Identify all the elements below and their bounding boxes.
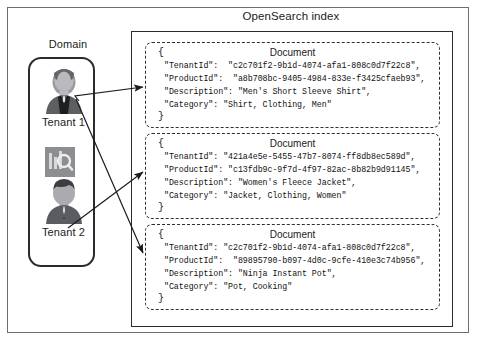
domain-box: Tenant 1 Tenant 2 <box>28 57 95 267</box>
document-field-productid: "ProductId": "a8b708bc-9405-4984-833e-f3… <box>146 72 439 85</box>
document-field-description: "Description": "Men's Short Sleeve Shirt… <box>146 85 439 98</box>
tenant-1-avatar <box>42 67 86 115</box>
open-brace: { <box>158 138 164 150</box>
tenant-2-group: Tenant 2 <box>30 177 97 238</box>
document-card: { Document "TenantId": "421a4e5e-5455-47… <box>145 133 440 219</box>
document-field-tenantid: "TenantId": "421a4e5e-5455-47b7-8074-ff8… <box>146 150 439 163</box>
document-field-tenantid: "TenantId": "c2c701f2-9b1d-4074-afa1-808… <box>146 241 439 254</box>
opensearch-index-title: OpenSearch index <box>128 10 454 22</box>
document-field-description: "Description": "Women's Fleece Jacket", <box>146 176 439 189</box>
document-card: { Document "TenantId": "c2c701f2-9b1d-40… <box>145 42 440 128</box>
document-heading-row: { Document <box>146 138 439 150</box>
document-field-productid: "ProductId": "89895790-b097-4d0c-9cfe-41… <box>146 254 439 267</box>
document-card: { Document "TenantId": "c2c701f2-9b1d-40… <box>145 224 440 310</box>
document-heading: Document <box>270 229 316 240</box>
close-brace: } <box>146 293 439 305</box>
tenant-2-avatar <box>42 177 86 225</box>
document-heading-row: { Document <box>146 229 439 241</box>
opensearch-index-icon <box>45 147 75 177</box>
document-heading: Document <box>270 138 316 149</box>
document-field-category: "Category": "Shirt, Clothing, Men" <box>146 98 439 111</box>
open-brace: { <box>158 229 164 241</box>
close-brace: } <box>146 111 439 123</box>
domain-label: Domain <box>28 38 108 50</box>
tenant-2-label: Tenant 2 <box>30 226 97 238</box>
document-field-description: "Description": "Ninja Instant Pot", <box>146 267 439 280</box>
document-field-tenantid: "TenantId": "c2c701f2-9b1d-4074-afa1-808… <box>146 59 439 72</box>
document-field-category: "Category": "Pot, Cooking" <box>146 280 439 293</box>
tenant-1-label: Tenant 1 <box>30 116 97 128</box>
document-heading: Document <box>270 47 316 58</box>
close-brace: } <box>146 202 439 214</box>
document-field-productid: "ProductId": "c13fdb9c-9f7d-4f97-82ac-8b… <box>146 163 439 176</box>
tenant-1-group: Tenant 1 <box>30 67 97 128</box>
diagram-canvas: Domain Tenant 1 <box>0 0 477 341</box>
open-brace: { <box>158 47 164 59</box>
document-heading-row: { Document <box>146 47 439 59</box>
document-field-category: "Category": "Jacket, Clothing, Women" <box>146 189 439 202</box>
